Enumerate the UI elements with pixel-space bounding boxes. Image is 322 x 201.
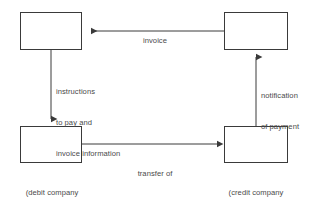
transfer-edge-label: transfer of funds and invoice informatio…	[125, 149, 185, 201]
transfer-edge-label-line1: transfer of	[125, 169, 185, 179]
invoice-edge-label: invoice	[143, 36, 167, 46]
notification-edge-label: notification of payment	[261, 71, 299, 153]
diagram-canvas: invoice instructions to pay and invoice …	[0, 0, 322, 201]
instructions-edge-label-line2: to pay and	[56, 118, 120, 128]
debit-account-caption: (debit company X's account)	[26, 168, 79, 201]
notification-edge-label-line1: notification	[261, 91, 299, 101]
instructions-edge-label-line1: instructions	[56, 87, 120, 97]
credit-account-caption-line1: (credit company	[229, 188, 284, 198]
instructions-edge-label: instructions to pay and invoice informat…	[56, 67, 120, 179]
transfer-edge-label-line2: funds and invoice	[125, 200, 185, 201]
company-x-box[interactable]	[20, 12, 82, 50]
company-y-box[interactable]	[224, 12, 288, 50]
notification-edge-label-line2: of payment	[261, 122, 299, 132]
credit-account-caption: (credit company Y's account)	[229, 168, 284, 201]
debit-account-caption-line1: (debit company	[26, 188, 79, 198]
instructions-edge-label-line3: invoice information	[56, 149, 120, 159]
